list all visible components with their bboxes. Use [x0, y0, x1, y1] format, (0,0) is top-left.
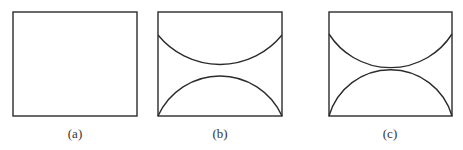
- panel-b-upper-arc: [158, 35, 282, 64]
- panel-c: [329, 12, 452, 116]
- panel-b-lower-arc: [158, 76, 282, 116]
- panel-c-upper-arc: [329, 34, 452, 68]
- panel-c-caption: (c): [383, 126, 397, 142]
- panel-a-caption: (a): [68, 126, 82, 142]
- panel-b-caption: (b): [212, 126, 227, 142]
- panel-c-rectangle: [329, 12, 452, 116]
- panel-a-rectangle: [13, 12, 137, 116]
- panel-c-lower-arc: [329, 70, 452, 116]
- panel-b: [158, 12, 282, 116]
- panel-a: [13, 12, 137, 116]
